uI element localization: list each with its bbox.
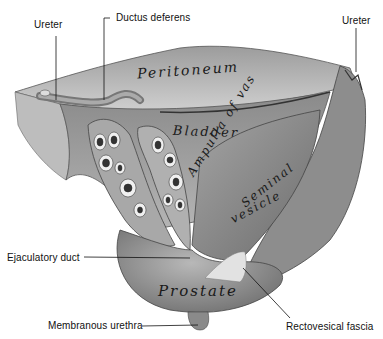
membranous-urethra-shape — [188, 312, 209, 330]
label-rectovesical-fascia: Rectovesical fascia — [286, 321, 374, 332]
label-ureter-right: Ureter — [342, 15, 370, 26]
label-ureter-left: Ureter — [34, 19, 62, 30]
label-prostate: Prostate — [158, 282, 238, 300]
label-ejaculatory-duct: Ejaculatory duct — [7, 252, 80, 263]
label-ductus-deferens: Ductus deferens — [116, 12, 190, 23]
label-membranous-urethra: Membranous urethra — [48, 320, 143, 331]
anatomy-diagram: Ureter Ductus deferens Ureter Ejaculator… — [0, 0, 383, 339]
